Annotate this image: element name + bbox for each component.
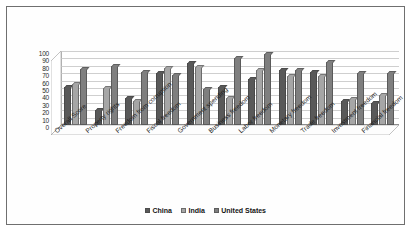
legend-item[interactable]: China — [145, 207, 172, 214]
bar-top-cap — [125, 96, 135, 99]
y-axis-tick: 90 — [42, 58, 49, 65]
bar[interactable] — [111, 66, 118, 125]
legend-swatch-icon — [181, 208, 186, 213]
legend-label: India — [188, 207, 204, 214]
y-axis: 1009080706050403020100 — [25, 45, 49, 131]
legend-label: China — [152, 207, 171, 214]
y-axis-tick: 40 — [42, 95, 49, 102]
legend-swatch-icon — [145, 208, 150, 213]
bar-top-cap — [172, 73, 182, 76]
bar-top-cap — [234, 56, 244, 59]
y-axis-tick: 0 — [46, 125, 49, 132]
bar-top-cap — [195, 65, 205, 68]
bar[interactable] — [80, 69, 87, 125]
screenshot-root: 1009080706050403020100 Overall ScoreProp… — [0, 0, 411, 231]
bar-top-cap — [326, 60, 336, 63]
bar[interactable] — [234, 58, 241, 125]
bar-top-cap — [295, 68, 305, 71]
bar[interactable] — [264, 54, 271, 125]
chart-frame: 1009080706050403020100 Overall ScoreProp… — [6, 6, 405, 225]
legend-item[interactable]: United States — [214, 207, 266, 214]
bar-top-cap — [187, 61, 197, 64]
legend-item[interactable]: India — [181, 207, 205, 214]
bar[interactable] — [326, 62, 333, 125]
bar-top-cap — [203, 87, 213, 90]
x-axis-labels: Overall ScoreProperty rightsFreedom from… — [51, 129, 399, 199]
bar-top-cap — [111, 64, 121, 67]
bar-top-cap — [164, 66, 174, 69]
bar-top-cap — [357, 71, 367, 74]
bar-top-cap — [141, 70, 151, 73]
bar-top-cap — [264, 52, 274, 55]
chart-legend: ChinaIndiaUnited States — [7, 207, 404, 214]
bar-top-cap — [310, 70, 320, 73]
bar-top-cap — [387, 71, 397, 74]
y-axis-tick: 20 — [42, 110, 49, 117]
y-axis-tick: 70 — [42, 73, 49, 80]
bar-top-cap — [80, 67, 90, 70]
legend-swatch-icon — [214, 208, 219, 213]
bar-top-cap — [279, 68, 289, 71]
legend-label: United States — [221, 207, 266, 214]
